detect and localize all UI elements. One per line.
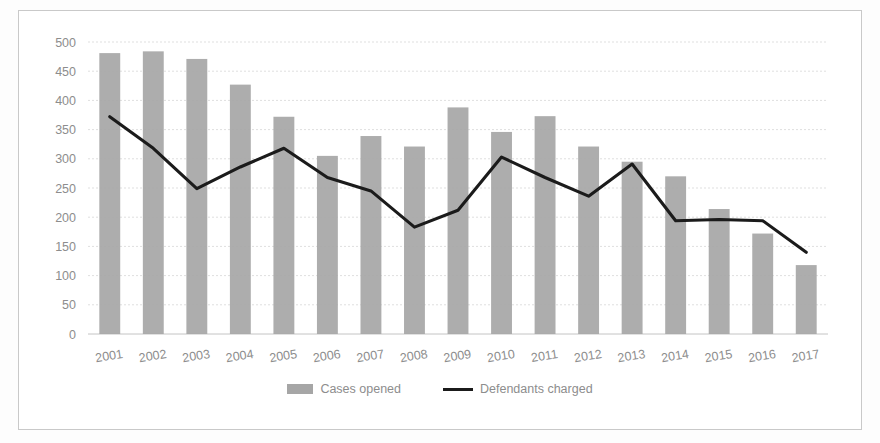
- bar: [448, 107, 469, 334]
- y-axis-tick-labels: 050100150200250300350400450500: [55, 36, 76, 342]
- bar: [622, 162, 643, 334]
- bar: [360, 136, 381, 334]
- chart-legend: Cases opened Defendants charged: [0, 382, 880, 396]
- bar: [796, 265, 817, 334]
- bar: [491, 132, 512, 334]
- svg-text:2017: 2017: [791, 347, 821, 365]
- svg-text:150: 150: [55, 240, 76, 254]
- svg-text:2010: 2010: [486, 347, 516, 365]
- svg-text:2003: 2003: [181, 347, 211, 365]
- svg-text:2012: 2012: [573, 347, 603, 365]
- svg-text:2004: 2004: [225, 347, 255, 365]
- svg-text:2006: 2006: [312, 347, 342, 365]
- svg-text:200: 200: [55, 211, 76, 225]
- bar: [752, 234, 773, 334]
- bar: [404, 147, 425, 334]
- bar: [230, 85, 251, 334]
- bar: [535, 116, 556, 334]
- svg-text:350: 350: [55, 123, 76, 137]
- svg-text:2002: 2002: [138, 347, 168, 365]
- svg-text:50: 50: [62, 298, 76, 312]
- bar: [186, 59, 207, 334]
- legend-label-defendants-charged: Defendants charged: [480, 382, 593, 396]
- svg-text:2008: 2008: [399, 347, 429, 365]
- svg-text:2005: 2005: [268, 347, 298, 365]
- svg-text:400: 400: [55, 94, 76, 108]
- svg-text:300: 300: [55, 152, 76, 166]
- svg-text:2016: 2016: [747, 347, 777, 365]
- chart-svg: 050100150200250300350400450500 200120022…: [0, 0, 880, 443]
- svg-text:500: 500: [55, 36, 76, 50]
- plot-area: 050100150200250300350400450500 200120022…: [0, 0, 880, 443]
- bar: [317, 156, 338, 334]
- legend-label-cases-opened: Cases opened: [320, 382, 401, 396]
- bar: [578, 147, 599, 334]
- legend-line-swatch-icon: [443, 388, 473, 391]
- bar-series-cases-opened: [99, 51, 816, 334]
- bar: [709, 209, 730, 334]
- svg-text:100: 100: [55, 269, 76, 283]
- svg-text:0: 0: [69, 328, 76, 342]
- bar: [99, 53, 120, 334]
- chart-container: 050100150200250300350400450500 200120022…: [0, 0, 880, 443]
- svg-text:2001: 2001: [94, 347, 124, 365]
- bar: [143, 51, 164, 334]
- svg-text:2014: 2014: [660, 347, 690, 365]
- legend-bar-swatch-icon: [287, 384, 313, 394]
- svg-text:2013: 2013: [617, 347, 647, 365]
- svg-text:250: 250: [55, 182, 76, 196]
- bar: [665, 176, 686, 334]
- legend-item-defendants-charged: Defendants charged: [443, 382, 593, 396]
- svg-text:2015: 2015: [704, 347, 734, 365]
- x-axis-tick-labels: 2001200220032004200520062007200820092010…: [94, 347, 820, 365]
- legend-item-cases-opened: Cases opened: [287, 382, 401, 396]
- svg-text:2011: 2011: [530, 347, 559, 365]
- svg-text:2009: 2009: [443, 347, 473, 365]
- svg-text:2007: 2007: [355, 347, 385, 365]
- svg-text:450: 450: [55, 65, 76, 79]
